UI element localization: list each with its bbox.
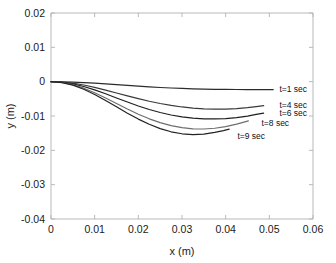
series-label: t=8 sec — [261, 118, 289, 128]
deflection-line-chart: 00.010.020.030.040.050.06 0.020.010-0.01… — [0, 0, 336, 263]
y-tick-label: 0.02 — [25, 7, 46, 19]
y-tick-label: 0.01 — [25, 41, 46, 53]
x-tick-label: 0 — [48, 223, 54, 235]
y-axis-title: y (m) — [4, 103, 16, 128]
x-tick-label: 0.06 — [303, 223, 324, 235]
x-tick-label: 0.01 — [84, 223, 105, 235]
x-tick-label: 0.04 — [215, 223, 236, 235]
x-tick-label: 0.02 — [128, 223, 149, 235]
chart-figure: 00.010.020.030.040.050.06 0.020.010-0.01… — [0, 0, 336, 263]
series-label: t=1 sec — [279, 84, 307, 94]
y-tick-label: -0.01 — [21, 110, 45, 122]
y-tick-label: -0.04 — [21, 213, 45, 225]
series-label: t=9 sec — [237, 131, 265, 141]
y-tick-label: 0 — [39, 75, 45, 87]
x-tick-label: 0.05 — [259, 223, 280, 235]
y-tick-label: -0.02 — [21, 144, 45, 156]
y-tick-label: -0.03 — [21, 178, 45, 190]
series-label: t=6 sec — [279, 108, 307, 118]
x-axis-title: x (m) — [169, 245, 194, 257]
x-tick-label: 0.03 — [172, 223, 193, 235]
